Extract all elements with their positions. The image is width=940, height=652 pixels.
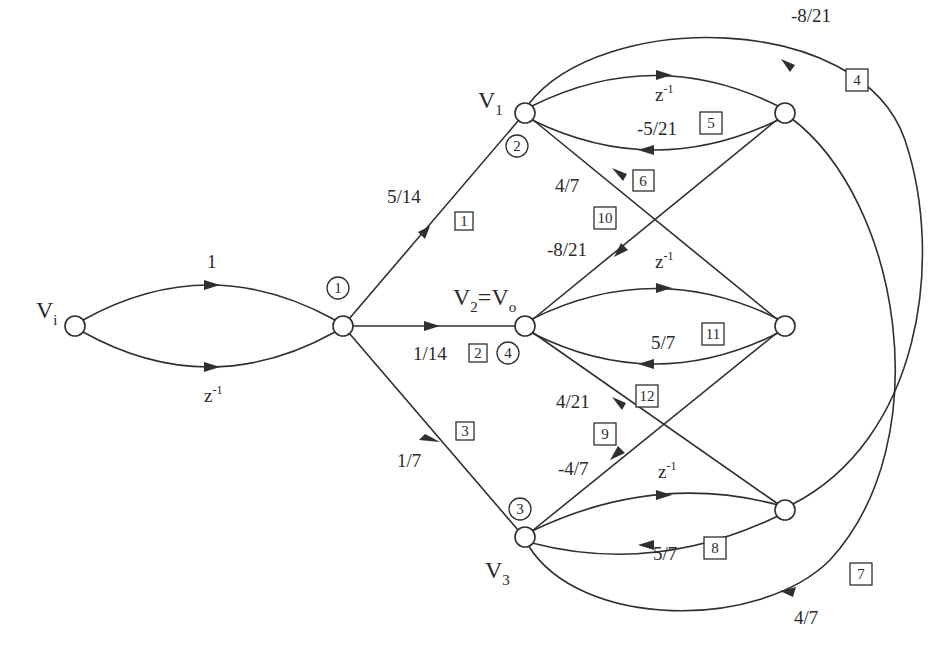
svg-text:1: 1 (460, 213, 468, 229)
box-tag-11: 11 (702, 323, 724, 345)
gain-e4: -8/21 (791, 5, 831, 26)
node-1 (333, 316, 353, 336)
node-r1 (775, 103, 795, 123)
svg-text:5: 5 (707, 115, 715, 131)
edge-9-r2-v3 (532, 332, 778, 531)
gain-input-top: 1 (207, 251, 217, 272)
gain-delay-v1: z-1 (655, 82, 673, 105)
gain-delay-v2: z-1 (655, 249, 673, 272)
circle-tag-1: 1 (327, 277, 349, 299)
label-v1: V1 (478, 87, 503, 118)
box-tag-4: 4 (846, 69, 868, 91)
edge-v2-r2-delay (532, 289, 778, 320)
gain-input-bottom: z-1 (204, 383, 222, 406)
box-tag-6: 6 (633, 170, 654, 191)
node-vi (65, 316, 85, 336)
box-tag-8: 8 (704, 537, 726, 559)
node-v1 (515, 103, 535, 123)
gain-e10: -8/21 (547, 239, 587, 260)
gain-e11: 5/7 (651, 332, 675, 353)
gain-e5: -5/21 (637, 118, 677, 139)
svg-text:6: 6 (639, 173, 647, 189)
svg-text:4: 4 (853, 72, 861, 88)
gain-e3: 1/7 (397, 450, 421, 471)
node-r2 (775, 316, 795, 336)
svg-text:4: 4 (504, 345, 512, 361)
node-v3 (515, 527, 535, 547)
gain-delay-v3: z-1 (658, 459, 676, 482)
gain-e9: -4/7 (558, 458, 589, 479)
signal-flow-graph: Vi V1 V2=Vo V3 1 z-1 z-1 z-1 z-1 5/14 1/… (0, 0, 940, 652)
svg-text:2: 2 (474, 345, 482, 361)
label-vi: Vi (36, 297, 58, 328)
gain-e1: 5/14 (387, 186, 421, 207)
box-tag-12: 12 (636, 385, 658, 407)
edge-4-r3-v1 (528, 38, 922, 505)
box-tag-7: 7 (850, 563, 872, 585)
node-r3 (775, 500, 795, 520)
svg-text:9: 9 (601, 426, 609, 442)
gain-e6: 4/7 (555, 175, 579, 196)
edge-v3-r3-delay (532, 493, 778, 531)
svg-text:11: 11 (706, 326, 720, 342)
svg-text:7: 7 (857, 566, 865, 582)
box-tag-5: 5 (700, 112, 722, 134)
svg-text:3: 3 (461, 423, 469, 439)
edge-vi-n1-top (83, 285, 335, 320)
circle-tag-4: 4 (497, 342, 519, 364)
box-tag-3: 3 (456, 422, 474, 440)
box-tag-2: 2 (469, 344, 487, 362)
gain-e8: 5/7 (653, 543, 677, 564)
svg-text:3: 3 (516, 501, 524, 517)
gain-e12: 4/21 (556, 391, 590, 412)
gain-e7: 4/7 (794, 607, 818, 628)
circle-tag-3: 3 (509, 498, 531, 520)
node-v2 (515, 316, 535, 336)
svg-text:8: 8 (711, 540, 719, 556)
circle-tag-2: 2 (506, 135, 528, 157)
svg-text:1: 1 (334, 280, 342, 296)
gain-e2: 1/14 (413, 343, 447, 364)
svg-text:12: 12 (640, 388, 655, 404)
svg-text:2: 2 (513, 138, 521, 154)
label-v3: V3 (485, 557, 510, 588)
box-tag-10: 10 (594, 207, 616, 229)
box-tag-1: 1 (455, 212, 473, 230)
label-v2-vo: V2=Vo (453, 284, 516, 315)
box-tag-9: 9 (594, 423, 616, 445)
edge-vi-n1-bottom (83, 332, 335, 367)
svg-text:10: 10 (598, 210, 613, 226)
